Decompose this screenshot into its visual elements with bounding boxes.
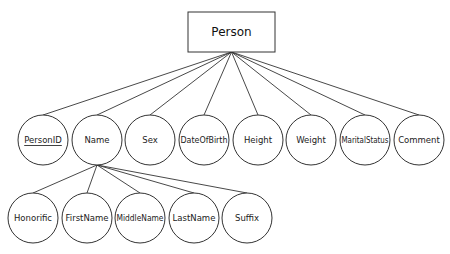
attribute-label: MaritalStatus (342, 135, 389, 145)
attribute-sex: Sex (125, 115, 175, 165)
attribute-label: Comment (398, 135, 440, 145)
attribute-comment: Comment (394, 115, 444, 165)
attribute-dateofbirth: DateOfBirth (179, 115, 229, 165)
attribute-label: Sex (142, 135, 158, 145)
edge-name-lastname (97, 165, 194, 193)
attribute-label: Suffix (235, 213, 259, 223)
attribute-maritalstatus: MaritalStatus (340, 115, 390, 165)
edge-person-comment (232, 52, 420, 115)
attribute-label: Height (244, 135, 273, 145)
edge-person-maritalstatus (232, 52, 366, 115)
name-component-firstname: FirstName (62, 193, 112, 243)
entity-person: Person (188, 12, 275, 52)
edge-person-name (97, 52, 232, 115)
er-diagram: Person PersonIDNameSexDateOfBirthHeightW… (0, 0, 450, 254)
edge-name-suffix (97, 165, 247, 193)
attribute-label: Weight (296, 135, 326, 145)
edge-person-sex (150, 52, 232, 115)
name-component-honorific: Honorific (8, 193, 58, 243)
attribute-personid: PersonID (18, 115, 68, 165)
attribute-height: Height (233, 115, 283, 165)
name-component-nodes: HonorificFirstNameMiddleNameLastNameSuff… (8, 193, 272, 243)
edge-person-height (232, 52, 259, 115)
attribute-label: Name (84, 135, 109, 145)
attribute-label: MiddleName (117, 213, 164, 223)
attribute-label: FirstName (66, 213, 109, 223)
attribute-label: Honorific (14, 213, 52, 223)
attribute-label: PersonID (24, 135, 62, 145)
attribute-label: LastName (173, 213, 216, 223)
attribute-weight: Weight (286, 115, 336, 165)
attribute-nodes: PersonIDNameSexDateOfBirthHeightWeightMa… (18, 115, 444, 165)
name-component-middlename: MiddleName (115, 193, 165, 243)
name-component-lastname: LastName (169, 193, 219, 243)
name-component-suffix: Suffix (222, 193, 272, 243)
attribute-label: DateOfBirth (181, 135, 228, 145)
attribute-name: Name (72, 115, 122, 165)
entity-label: Person (211, 25, 251, 39)
edge-person-dateofbirth (204, 52, 232, 115)
edge-person-personid (43, 52, 232, 115)
edge-name-honorific (33, 165, 97, 193)
